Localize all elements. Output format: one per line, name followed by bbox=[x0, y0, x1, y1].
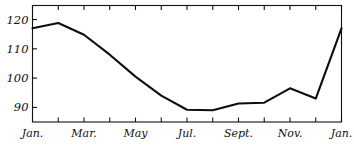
y-tick-label: 90 bbox=[14, 100, 29, 114]
line-chart: 90100110120 Jan.Mar.MayJul.Sept.Nov.Jan. bbox=[0, 0, 354, 151]
y-tick-label: 120 bbox=[7, 13, 29, 27]
x-tick-label: Jan. bbox=[20, 127, 44, 140]
y-tick-label: 100 bbox=[7, 71, 29, 85]
x-tick-label: Sept. bbox=[224, 127, 253, 140]
x-tick-label: Jul. bbox=[176, 127, 197, 140]
chart-canvas: 90100110120 Jan.Mar.MayJul.Sept.Nov.Jan. bbox=[0, 0, 354, 151]
y-tick-label: 110 bbox=[7, 42, 29, 56]
x-tick-label: Jan. bbox=[329, 127, 353, 140]
x-tick-label: Nov. bbox=[277, 127, 303, 140]
x-tick-label: May bbox=[122, 127, 148, 140]
x-tick-label: Mar. bbox=[70, 127, 96, 140]
